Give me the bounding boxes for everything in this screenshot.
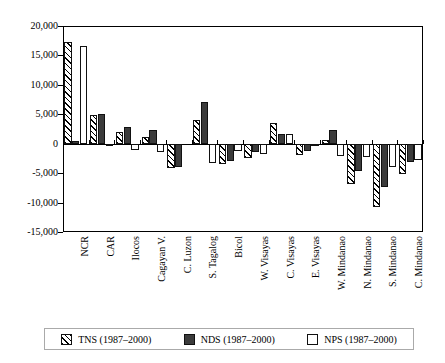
bar-nds [381,144,388,188]
y-tick-label: -15,000 [0,227,58,237]
bar-tns [64,42,71,143]
bar-nps [209,144,216,163]
y-tick-mark [58,173,63,174]
bar-nds [175,144,182,168]
bar-nds [72,141,79,144]
x-axis-label: C. Visayas [286,236,296,279]
bar-nds [278,134,285,144]
bar-tns [167,144,174,169]
bar-nps [286,134,293,144]
x-axis-label: Cagayan V. [157,236,167,282]
tns-swatch-icon [61,334,72,345]
legend-item-tns: TNS (1987–2000) [61,334,151,345]
legend-item-nps: NPS (1987–2000) [307,334,397,345]
y-tick-mark [58,55,63,56]
x-axis-label: CAR [106,236,116,257]
bar-nds [149,130,156,144]
nps-swatch-icon [307,334,318,345]
bar-tns [193,120,200,144]
bar-tns [399,144,406,175]
bar-tns [90,115,97,143]
y-tick-mark [58,114,63,115]
bar-nds [227,144,234,161]
y-tick-mark [58,26,63,27]
x-axis-label: S. Tagalog [208,236,218,278]
x-axis-label: N. Mindanao [363,236,373,289]
bar-nps [106,144,113,146]
x-axis-label: E. Visayas [311,236,321,278]
y-tick-label: 10,000 [0,80,58,90]
bar-nds [252,144,259,152]
legend-label-nds: NDS (1987–2000) [201,334,275,345]
bar-nds [304,144,311,152]
bar-nps [157,144,164,152]
bar-nds [329,130,336,144]
y-tick-mark [58,232,63,233]
legend-label-nps: NPS (1987–2000) [324,334,397,345]
bar-tns [142,137,149,144]
bar-tns [116,132,123,144]
bar-nds [407,144,414,162]
chart-legend: TNS (1987–2000) NDS (1987–2000) NPS (198… [44,328,414,350]
bar-chart: 20,00015,00010,0005,0000-5,000-10,000-15… [0,0,445,363]
bar-nps [389,144,396,168]
legend-item-nds: NDS (1987–2000) [184,334,275,345]
bar-nds [201,102,208,144]
bar-tns [219,144,226,164]
plot-area [63,26,423,232]
y-tick-label: 15,000 [0,50,58,60]
bar-nps [414,144,421,160]
bar-tns [244,144,251,158]
x-tick-mark [423,140,424,144]
bar-tns [296,144,303,156]
bar-nps [337,144,344,156]
bar-nds [124,127,131,144]
x-axis-label: W. Mindanao [337,236,347,290]
nds-swatch-icon [184,334,195,345]
bar-nps [260,144,267,154]
x-axis-label: Bicol [234,236,244,258]
x-axis-label: Ilocos [131,236,141,260]
bar-nps [363,144,370,158]
y-tick-label: 0 [0,139,58,149]
y-tick-label: 5,000 [0,109,58,119]
y-tick-mark [58,85,63,86]
bar-nds [355,144,362,172]
y-tick-label: -5,000 [0,168,58,178]
y-tick-label: -10,000 [0,198,58,208]
bar-nps [234,144,241,152]
bar-nps [80,46,87,144]
x-axis-label: S. Mindanao [388,236,398,287]
bar-tns [322,140,329,144]
x-axis-label: C. Luzon [183,236,193,273]
bar-tns [347,144,354,185]
legend-label-tns: TNS (1987–2000) [78,334,151,345]
bar-nps [131,144,138,150]
bar-tns [373,144,380,207]
y-tick-label: 20,000 [0,21,58,31]
x-axis-label: C. Mindanao [414,236,424,288]
y-tick-mark [58,203,63,204]
x-axis-label: W. Visayas [260,236,270,280]
x-axis-label: NCR [80,236,90,257]
bar-tns [270,123,277,144]
bar-nps [311,144,318,146]
bar-nds [98,114,105,143]
